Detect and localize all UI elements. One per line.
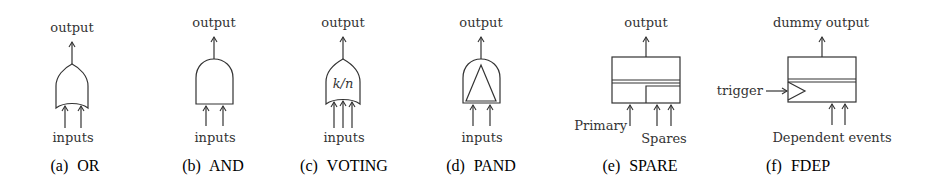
output-label: output [459,15,503,30]
caption-letter: (e) [602,157,620,175]
caption-voting: (c) VOTING [300,157,388,175]
output-label: output [321,15,365,30]
panel-and: output inputs (b) AND [182,15,243,175]
caption-letter: (c) [300,157,318,175]
panel-pand: output inputs (d) PAND [446,15,516,175]
fdep-gate-icon [788,57,856,102]
caption-name: SPARE [629,157,677,174]
trigger-label: trigger [717,83,764,98]
caption-name: AND [209,157,244,174]
output-label: output [192,15,236,30]
inputs-label: inputs [461,130,502,145]
inputs-label: inputs [323,130,364,145]
caption-name: OR [77,157,100,174]
caption-or: (a) OR [51,157,100,175]
inputs-label: inputs [52,130,93,145]
panel-spare: output Primary Spares (e) SPARE [574,15,687,175]
caption-pand: (d) PAND [446,157,516,175]
fault-tree-gates-figure: output inputs (a) OR output inputs (b) A… [0,0,939,196]
caption-name: PAND [474,157,516,174]
primary-label: Primary [574,118,627,133]
caption-spare: (e) SPARE [602,157,677,175]
dependent-events-label: Dependent events [772,130,891,145]
dummy-output-label: dummy output [773,15,870,30]
caption-name: VOTING [327,157,389,174]
or-gate-icon [56,64,88,108]
output-label: output [624,15,668,30]
output-label: output [50,20,94,35]
caption-letter: (a) [51,157,69,175]
spare-gate-icon [612,57,680,103]
caption-letter: (b) [182,157,201,175]
panel-or: output inputs (a) OR [50,20,99,175]
caption-letter: (f) [766,157,782,175]
caption-fdep: (f) FDEP [766,157,830,175]
and-gate-icon [196,59,233,104]
priority-triangle-icon [466,65,496,101]
caption-name: FDEP [791,157,830,174]
voting-threshold-label: k/n [333,76,354,91]
spares-label: Spares [641,131,687,146]
caption-and: (b) AND [182,157,243,175]
panel-voting: output k/n inputs (c) VOTING [300,15,388,175]
inputs-label: inputs [194,130,235,145]
panel-fdep: dummy output trigger Dependent events (f… [717,15,892,175]
caption-letter: (d) [446,157,465,175]
